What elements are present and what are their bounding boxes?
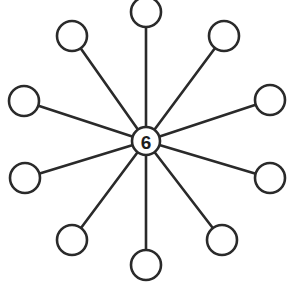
edge-upper-right	[146, 36, 224, 141]
leaf-node-lower-left	[57, 225, 87, 255]
leaf-node-upper-left	[57, 21, 87, 51]
star-diagram: 6	[0, 0, 293, 287]
center-node: 6	[132, 127, 160, 155]
edge-left-lower	[25, 141, 146, 178]
leaf-node-lower-right	[207, 225, 237, 255]
leaf-node-left-upper	[9, 86, 39, 116]
center-node-label: 6	[141, 132, 152, 153]
leaf-node-right-upper	[255, 85, 285, 115]
edge-right-upper	[146, 100, 270, 141]
leaf-node-upper-right	[209, 21, 239, 51]
edge-upper-left	[72, 36, 146, 141]
leaf-node-left-lower	[10, 163, 40, 193]
edge-left-upper	[24, 101, 146, 141]
leaf-node-right-lower	[255, 163, 285, 193]
leaf-node-bottom	[131, 250, 161, 280]
edge-right-lower	[146, 141, 270, 178]
edge-lower-left	[72, 141, 146, 240]
leaf-node-top	[131, 0, 161, 27]
edge-lower-right	[146, 141, 222, 240]
